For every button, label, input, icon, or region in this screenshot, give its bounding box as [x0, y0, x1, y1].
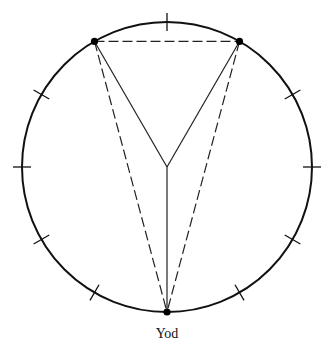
- tick-mark: [34, 90, 50, 99]
- solid-line: [167, 41, 240, 167]
- tick-mark: [34, 235, 50, 244]
- tick-mark: [285, 90, 301, 99]
- tick-mark: [235, 285, 244, 301]
- tick-mark: [90, 285, 99, 301]
- yod-diagram: [0, 0, 329, 352]
- left-vertex-dot: [91, 38, 98, 45]
- tick-mark: [285, 235, 301, 244]
- dashed-line: [95, 41, 168, 312]
- bottom-vertex-dot: [163, 308, 170, 315]
- yod-label: Yod: [156, 326, 179, 342]
- solid-line: [95, 41, 168, 167]
- dashed-line: [167, 41, 240, 312]
- right-vertex-dot: [236, 38, 243, 45]
